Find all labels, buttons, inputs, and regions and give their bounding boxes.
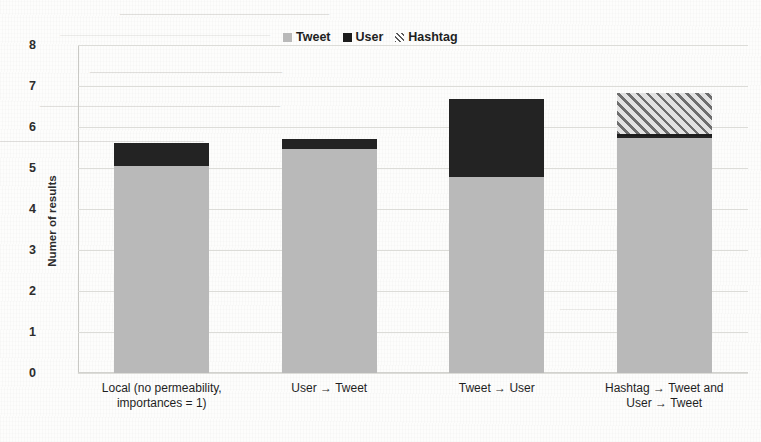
bleedthrough-mark: ——————————— [120,2,329,24]
bar-group[interactable] [114,45,209,373]
x-axis-tick-label: Hashtag → Tweet and User → Tweet [577,381,752,411]
y-axis-title: Numer of results [46,175,58,266]
x-axis-tick-label: Tweet → User [409,381,584,396]
y-axis-tick-label: 3 [0,243,36,257]
bar-group[interactable] [282,45,377,373]
tweet-swatch-icon [283,33,292,42]
bar-segment-tweet[interactable] [282,149,377,373]
legend-item-tweet: Tweet [283,30,331,44]
chart-page: ——————————— —————————————— ———————————— … [0,0,761,442]
chart-legend: Tweet User Hashtag [283,30,463,44]
y-axis-tick-label: 6 [0,120,36,134]
y-axis-tick-label: 4 [0,202,36,216]
bar-segment-tweet[interactable] [617,138,712,373]
y-axis-tick-label: 8 [0,38,36,52]
hashtag-swatch-icon [395,33,404,42]
x-axis-tick-label: Local (no permeability, importances = 1) [74,381,249,411]
legend-label-tweet: Tweet [296,30,331,44]
bar-segment-user[interactable] [617,136,712,138]
legend-label-hashtag: Hashtag [408,30,457,44]
y-axis-tick-label: 7 [0,79,36,93]
legend-item-user: User [343,30,384,44]
bar-segment-user[interactable] [114,143,209,166]
bar-segment-tweet[interactable] [114,166,209,373]
legend-item-hashtag: Hashtag [395,30,457,44]
gridline [78,373,748,374]
plot-area: 012345678 [78,45,748,373]
bleedthrough-mark: —————————————— [60,26,270,43]
bar-segment-hashtag[interactable] [617,93,712,136]
bar-segment-tweet[interactable] [449,177,544,373]
legend-label-user: User [356,30,384,44]
bar-group[interactable] [449,45,544,373]
y-axis-tick-label: 5 [0,161,36,175]
bar-group[interactable] [617,45,712,373]
y-axis-tick-label: 2 [0,284,36,298]
y-axis-tick-label: 1 [0,325,36,339]
bar-segment-user[interactable] [282,139,377,148]
x-axis-tick-label: User → Tweet [242,381,417,396]
bar-segment-user[interactable] [449,99,544,177]
user-swatch-icon [343,33,352,42]
y-axis-tick-label: 0 [0,366,36,380]
